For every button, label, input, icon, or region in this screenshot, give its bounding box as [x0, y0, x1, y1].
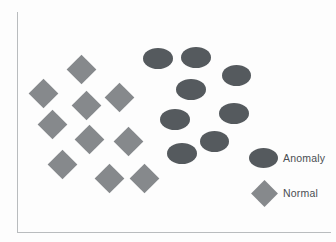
normal-point: [28, 78, 58, 108]
anomaly-point: [167, 143, 197, 164]
anomaly-scatter-figure: AnomalyNormal: [0, 0, 336, 242]
anomaly-point: [200, 131, 229, 152]
anomaly-point: [176, 79, 206, 100]
legend-label-anomaly: Anomaly: [283, 153, 325, 164]
normal-point: [66, 54, 96, 84]
normal-point: [74, 124, 104, 154]
legend-label-normal: Normal: [283, 188, 318, 199]
normal-point: [37, 109, 67, 139]
normal-point: [104, 82, 134, 112]
anomaly-point: [160, 109, 190, 130]
normal-point: [47, 149, 77, 179]
anomaly-point: [219, 103, 249, 124]
anomaly-point: [143, 48, 173, 69]
normal-point: [71, 90, 101, 120]
normal-point: [129, 163, 159, 193]
anomaly-point: [181, 47, 211, 68]
anomaly-point: [222, 65, 251, 86]
legend-marker-anomaly: [249, 148, 278, 168]
normal-point: [113, 126, 143, 156]
plot-area: [0, 0, 336, 242]
normal-point: [94, 163, 124, 193]
